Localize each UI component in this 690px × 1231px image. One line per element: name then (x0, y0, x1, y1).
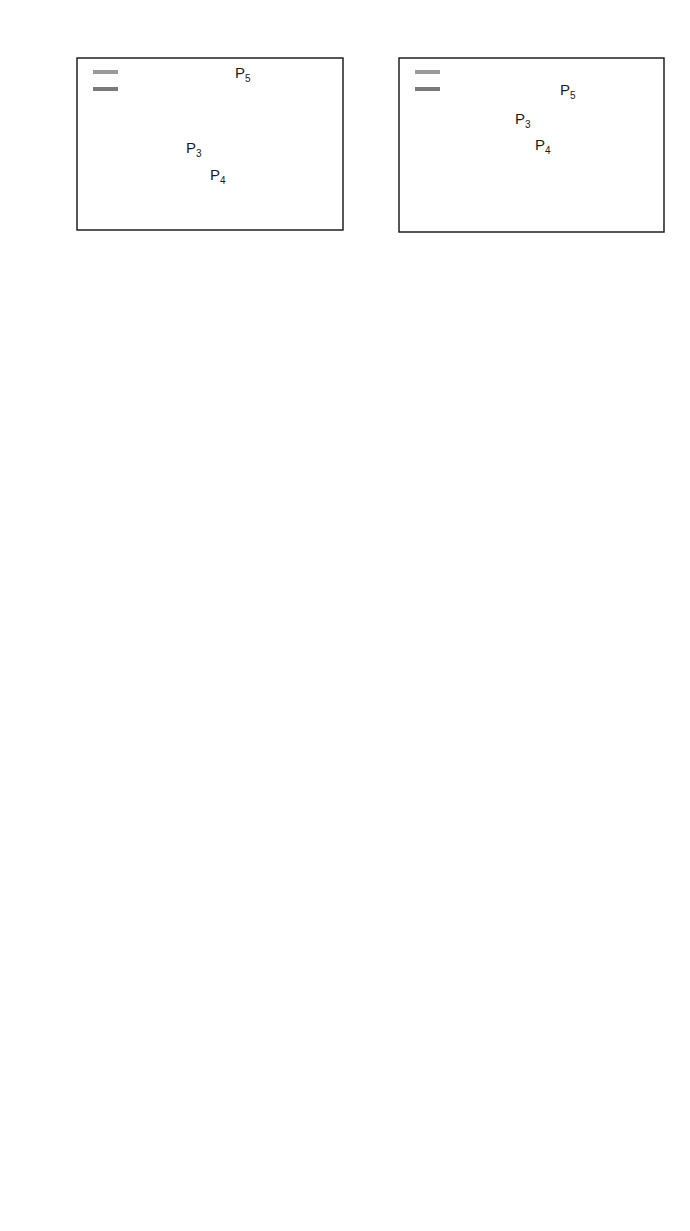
pulse-chart-right: P3 P4 P5 (399, 58, 664, 232)
peak-label-p3: P3 (515, 110, 531, 130)
peak-label-p4: P4 (210, 166, 226, 186)
plot-frame (399, 58, 664, 232)
peak-label-p3: P3 (186, 139, 202, 159)
peak-label-p5: P5 (235, 64, 251, 84)
figure: P3 P4 P5 P3 P4 P5 (0, 0, 690, 1231)
peak-label-p4: P4 (535, 136, 551, 156)
pulse-chart-left: P3 P4 P5 (77, 58, 343, 230)
peak-label-p5: P5 (560, 81, 576, 101)
plot-frame (77, 58, 343, 230)
